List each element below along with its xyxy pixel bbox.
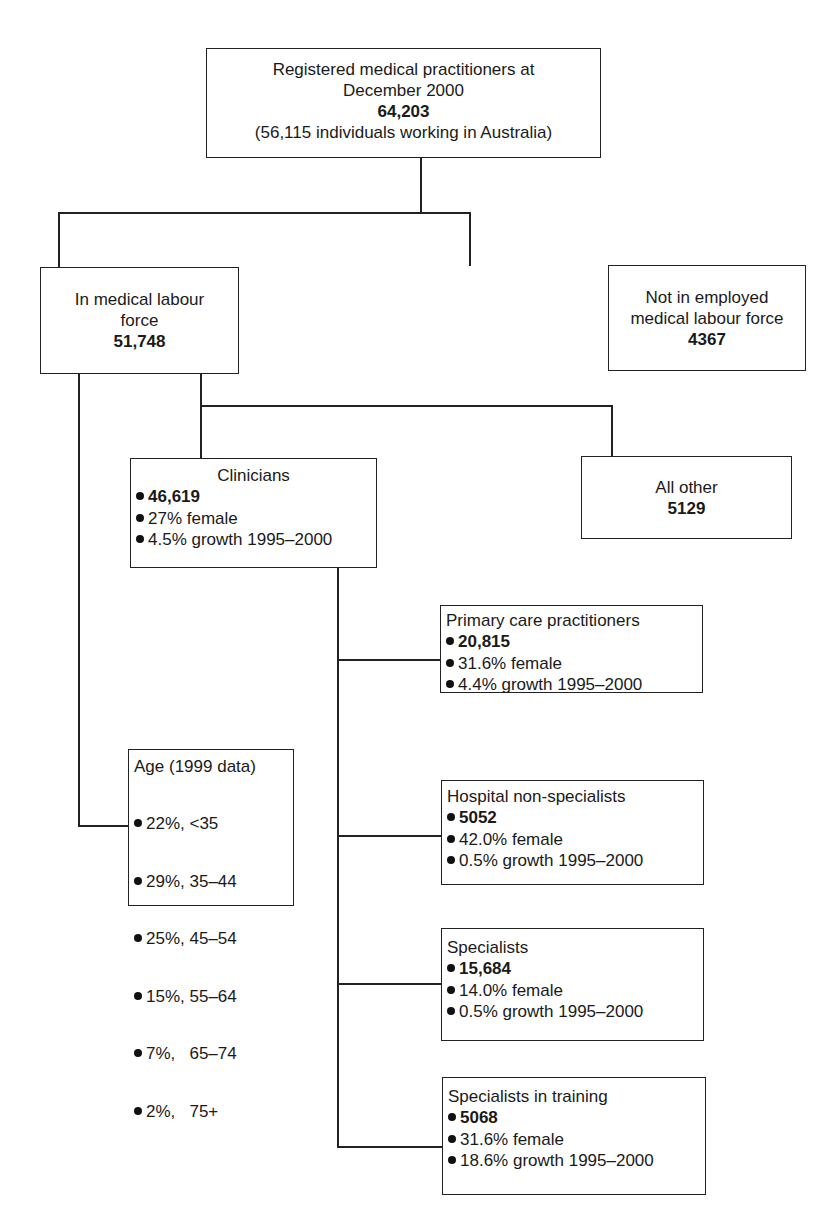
- connector-clinicians-branch: [200, 405, 612, 407]
- bullet-icon: [134, 1107, 142, 1115]
- connector-to-labour-force: [58, 212, 60, 268]
- connector-to-hospital: [337, 835, 442, 837]
- connector-labour-down: [200, 372, 202, 406]
- all-other-title: All other: [582, 477, 791, 498]
- bullet-icon: [134, 877, 142, 885]
- specialists-title: Specialists: [447, 937, 703, 958]
- labour-force-line2: force: [41, 310, 238, 331]
- not-employed-total: 4367: [609, 329, 805, 350]
- age-box: Age (1999 data) 22%, <35 29%, 35–44 25%,…: [128, 749, 294, 906]
- list-item: 22%, <35: [134, 813, 293, 835]
- connector-labour-to-age: [78, 372, 80, 826]
- list-item: 46,619: [136, 486, 376, 508]
- specialists-box: Specialists 15,684 14.0% female 0.5% gro…: [441, 928, 704, 1041]
- list-item: 4.4% growth 1995–2000: [446, 674, 702, 696]
- list-item: 0.5% growth 1995–2000: [447, 850, 703, 872]
- bullet-icon: [136, 514, 144, 522]
- specialists-list: 15,684 14.0% female 0.5% growth 1995–200…: [447, 958, 703, 1023]
- connector-to-specialists-training: [337, 1146, 443, 1148]
- bullet-icon: [446, 680, 454, 688]
- bullet-icon: [447, 856, 455, 864]
- bullet-icon: [134, 1049, 142, 1057]
- not-employed-line2: medical labour force: [609, 308, 805, 329]
- bullet-icon: [447, 1007, 455, 1015]
- list-item: 14.0% female: [447, 980, 703, 1002]
- bullet-icon: [134, 992, 142, 1000]
- labour-force-box: In medical labour force 51,748: [40, 267, 239, 374]
- bullet-icon: [447, 813, 455, 821]
- list-item: 0.5% growth 1995–2000: [447, 1001, 703, 1023]
- labour-force-line1: In medical labour: [41, 289, 238, 310]
- list-item: 29%, 35–44: [134, 871, 293, 893]
- list-item: 20,815: [446, 631, 702, 653]
- connector-root-branch: [58, 212, 470, 214]
- bullet-icon: [136, 492, 144, 500]
- primary-care-list: 20,815 31.6% female 4.4% growth 1995–200…: [446, 631, 702, 696]
- primary-care-box: Primary care practitioners 20,815 31.6% …: [440, 605, 703, 693]
- list-item: 7%, 65–74: [134, 1043, 293, 1065]
- all-other-total: 5129: [582, 498, 791, 519]
- root-line1: Registered medical practitioners at: [207, 59, 600, 80]
- list-item: 31.6% female: [446, 653, 702, 675]
- list-item: 2%, 75+: [134, 1101, 293, 1123]
- root-line2: December 2000: [207, 80, 600, 101]
- list-item: 31.6% female: [448, 1129, 705, 1151]
- connector-clinicians-trunk: [337, 566, 339, 1148]
- list-item: 5052: [447, 807, 703, 829]
- specialists-training-box: Specialists in training 5068 31.6% femal…: [442, 1077, 706, 1195]
- bullet-icon: [446, 659, 454, 667]
- list-item: 18.6% growth 1995–2000: [448, 1150, 705, 1172]
- all-other-box: All other 5129: [581, 456, 792, 539]
- connector-to-clinicians: [200, 405, 202, 459]
- root-note: (56,115 individuals working in Australia…: [207, 122, 600, 143]
- list-item: 27% female: [136, 508, 376, 530]
- bullet-icon: [448, 1156, 456, 1164]
- age-title: Age (1999 data): [134, 756, 293, 777]
- not-employed-line1: Not in employed: [609, 287, 805, 308]
- bullet-icon: [447, 986, 455, 994]
- root-total: 64,203: [207, 101, 600, 122]
- root-box: Registered medical practitioners at Dece…: [206, 48, 601, 158]
- primary-care-title: Primary care practitioners: [446, 610, 702, 631]
- hospital-title: Hospital non-specialists: [447, 786, 703, 807]
- not-employed-box: Not in employed medical labour force 436…: [608, 265, 806, 371]
- specialists-training-title: Specialists in training: [448, 1086, 705, 1107]
- connector-to-not-employed: [469, 212, 471, 266]
- connector-to-specialists: [337, 983, 442, 985]
- list-item: 5068: [448, 1107, 705, 1129]
- connector-to-all-other: [611, 405, 613, 457]
- bullet-icon: [134, 934, 142, 942]
- hospital-list: 5052 42.0% female 0.5% growth 1995–2000: [447, 807, 703, 872]
- bullet-icon: [136, 535, 144, 543]
- connector-root-down: [420, 156, 422, 213]
- bullet-icon: [446, 637, 454, 645]
- bullet-icon: [448, 1113, 456, 1121]
- list-item: 15,684: [447, 958, 703, 980]
- list-item: 42.0% female: [447, 829, 703, 851]
- clinicians-list: 46,619 27% female 4.5% growth 1995–2000: [136, 486, 376, 551]
- labour-force-total: 51,748: [41, 331, 238, 352]
- bullet-icon: [447, 835, 455, 843]
- bullet-icon: [134, 819, 142, 827]
- connector-to-primary-care: [337, 659, 442, 661]
- bullet-icon: [447, 964, 455, 972]
- connector-age-branch: [78, 825, 129, 827]
- list-item: 4.5% growth 1995–2000: [136, 529, 376, 551]
- clinicians-title: Clinicians: [136, 465, 371, 486]
- hospital-non-specialists-box: Hospital non-specialists 5052 42.0% fema…: [441, 780, 704, 885]
- bullet-icon: [448, 1135, 456, 1143]
- specialists-training-list: 5068 31.6% female 18.6% growth 1995–2000: [448, 1107, 705, 1172]
- list-item: 25%, 45–54: [134, 928, 293, 950]
- clinicians-box: Clinicians 46,619 27% female 4.5% growth…: [130, 458, 377, 568]
- age-list: 22%, <35 29%, 35–44 25%, 45–54 15%, 55–6…: [134, 777, 293, 1158]
- list-item: 15%, 55–64: [134, 986, 293, 1008]
